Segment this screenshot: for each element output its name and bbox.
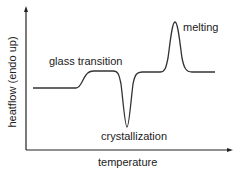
annotation-glass-transition: glass transition: [49, 55, 122, 67]
y-axis-arrow-icon: [24, 6, 28, 12]
annotation-crystallization: crystallization: [101, 130, 167, 142]
x-axis-label: temperature: [98, 156, 157, 168]
x-axis-arrow-icon: [227, 148, 233, 152]
annotation-melting: melting: [183, 21, 218, 33]
dsc-curve: [33, 22, 215, 127]
y-axis-label: heatflow (endo up): [6, 32, 18, 132]
